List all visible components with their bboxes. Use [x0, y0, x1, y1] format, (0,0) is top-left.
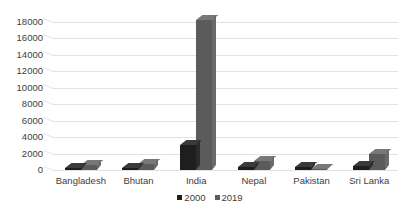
y-axis-tick-label: 2000: [22, 149, 43, 159]
chart-legend: 20002019: [0, 192, 420, 203]
y-axis-tick-label: 10000: [17, 83, 43, 93]
x-axis-tick-label: Bangladesh: [52, 174, 110, 190]
x-axis-tick-label: Nepal: [225, 174, 283, 190]
bar-bhutan-2000: [122, 168, 138, 170]
bar-group: [167, 16, 225, 172]
bar-chart: 1800016000140001200010000800060004000200…: [0, 0, 420, 211]
y-axis-tick-label: 14000: [17, 50, 43, 60]
bar-bangladesh-2000: [65, 168, 81, 170]
y-axis-tick-label: 12000: [17, 66, 43, 76]
bar-face: [311, 169, 327, 170]
legend-label: 2000: [184, 192, 205, 203]
bar-face: [180, 145, 196, 170]
x-axis: BangladeshBhutanIndiaNepalPakistanSri La…: [52, 174, 398, 190]
bar-group: [340, 16, 398, 172]
legend-item-2019[interactable]: 2019: [215, 192, 243, 203]
bar-nepal-2000: [238, 167, 254, 170]
bar-side: [212, 14, 216, 170]
bar-face: [295, 167, 311, 170]
bar-face: [122, 168, 138, 170]
legend-swatch-icon: [215, 195, 220, 200]
bar-pakistan-2000: [295, 167, 311, 170]
bars-layer: [52, 14, 398, 172]
y-axis-tick-label: 6000: [22, 116, 43, 126]
y-axis: 1800016000140001200010000800060004000200…: [0, 0, 48, 211]
y-axis-tick-label: 16000: [17, 33, 43, 43]
bar-sri-lanka-2000: [353, 166, 369, 170]
legend-swatch-icon: [177, 195, 182, 200]
bar-group: [283, 16, 341, 172]
bar-side: [154, 159, 158, 170]
x-axis-tick-label: India: [167, 174, 225, 190]
bar-group: [110, 16, 168, 172]
y-axis-tick-label: 0: [38, 165, 43, 175]
y-axis-tick-label: 8000: [22, 99, 43, 109]
bar-side: [196, 139, 200, 170]
bar-face: [353, 166, 369, 170]
bar-face: [238, 167, 254, 170]
legend-label: 2019: [222, 192, 243, 203]
y-axis-tick-label: 4000: [22, 132, 43, 142]
y-axis-tick-label: 18000: [17, 17, 43, 27]
x-axis-tick-label: Pakistan: [283, 174, 341, 190]
bar-india-2000: [180, 145, 196, 170]
bar-side: [385, 148, 389, 170]
bar-pakistan-2019: [311, 169, 327, 170]
x-axis-tick-label: Sri Lanka: [340, 174, 398, 190]
legend-item-2000[interactable]: 2000: [177, 192, 205, 203]
bar-group: [52, 16, 110, 172]
x-axis-tick-label: Bhutan: [110, 174, 168, 190]
bar-group: [225, 16, 283, 172]
